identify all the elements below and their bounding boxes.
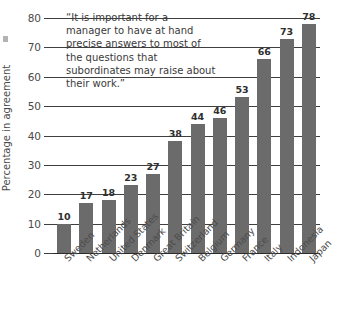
y-axis-tick <box>44 165 53 166</box>
y-axis-tick <box>44 77 53 78</box>
y-axis-tick <box>44 47 53 48</box>
bar-value-label: 18 <box>102 187 115 198</box>
bar <box>280 39 294 253</box>
bar-value-label: 66 <box>258 46 271 57</box>
quote-annotation: “It is important for a manager to have a… <box>66 11 216 90</box>
y-axis-tick <box>44 194 53 195</box>
y-axis-tick <box>44 18 53 19</box>
y-axis-tick-label: 0 <box>34 247 41 259</box>
bar-chart: Percentage in agreement 0102030405060708… <box>0 0 340 329</box>
bar-value-label: 73 <box>280 26 293 37</box>
y-axis-tick <box>44 253 53 254</box>
bar-value-label: 23 <box>124 172 137 183</box>
y-axis-tick-label: 80 <box>28 12 41 24</box>
bar-value-label: 10 <box>58 211 71 222</box>
bar <box>302 24 316 253</box>
y-axis-tick-label: 70 <box>28 41 41 53</box>
bar-value-label: 17 <box>80 190 93 201</box>
bar-value-label: 78 <box>302 11 315 22</box>
bar-value-label: 27 <box>147 161 160 172</box>
bar-value-label: 53 <box>236 84 249 95</box>
y-axis-tick-label: 60 <box>28 71 41 83</box>
bar-value-label: 38 <box>169 128 182 139</box>
edge-artifact <box>3 36 8 42</box>
y-axis-tick-label: 20 <box>28 188 41 200</box>
bar-value-label: 44 <box>191 111 204 122</box>
y-axis-tick <box>44 106 53 107</box>
y-axis-tick-label: 30 <box>28 159 41 171</box>
y-axis-tick-label: 10 <box>28 218 41 230</box>
bar-value-label: 46 <box>213 105 226 116</box>
y-axis-tick <box>44 136 53 137</box>
y-axis-title: Percentage in agreement <box>1 65 12 192</box>
y-axis-tick-label: 50 <box>28 100 41 112</box>
bar <box>257 59 271 253</box>
y-axis-tick-label: 40 <box>28 130 41 142</box>
y-axis-tick <box>44 224 53 225</box>
